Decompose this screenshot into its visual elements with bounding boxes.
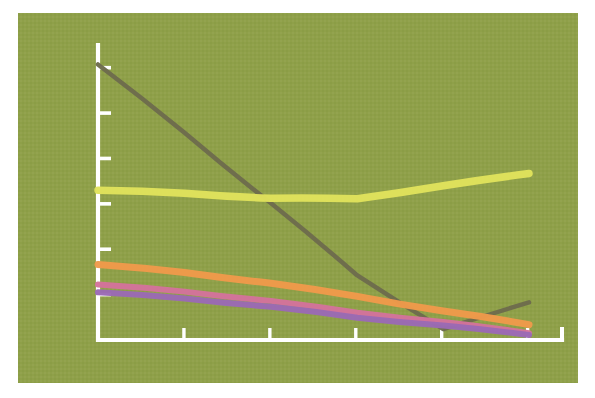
line-chart-svg: [0, 0, 595, 398]
chart-page: [0, 0, 595, 398]
